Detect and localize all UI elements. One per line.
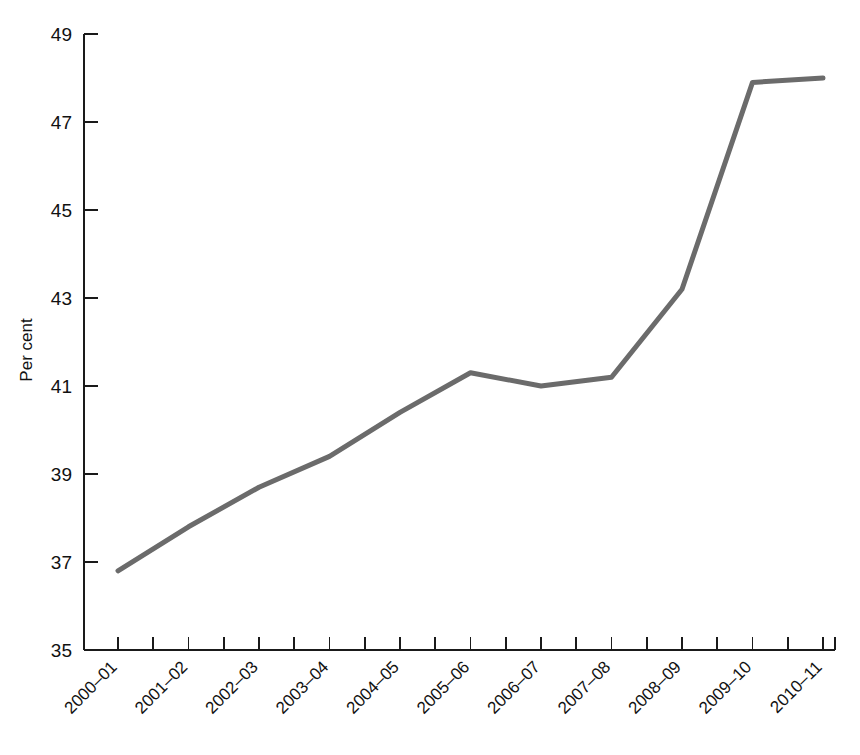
series-line (118, 78, 823, 571)
y-axis: 3537394143454749 (51, 24, 98, 661)
x-tick-label: 2007–08 (554, 657, 614, 717)
x-tick-label: 2009–10 (695, 657, 755, 717)
data-series-group (118, 78, 823, 571)
x-tick-label: 2010–11 (766, 657, 825, 716)
y-tick-label: 41 (51, 376, 72, 397)
x-tick-label: 2001–02 (131, 657, 191, 717)
y-tick-label: 45 (51, 200, 72, 221)
y-axis-title: Per cent (17, 318, 36, 382)
x-tick-label: 2005–06 (413, 657, 473, 717)
y-tick-label: 47 (51, 112, 72, 133)
y-tick-label: 43 (51, 288, 72, 309)
line-chart-figure: 3537394143454749 2000–012001–022002–0320… (0, 0, 860, 755)
y-tick-label: 35 (51, 640, 72, 661)
y-tick-label: 39 (51, 464, 72, 485)
x-tick-label: 2000–01 (61, 657, 121, 717)
chart-canvas: 3537394143454749 2000–012001–022002–0320… (0, 0, 860, 755)
y-axis-title-group: Per cent (17, 318, 36, 382)
x-tick-label: 2004–05 (343, 657, 403, 717)
x-tick-label: 2008–09 (625, 657, 685, 717)
y-tick-label: 37 (51, 552, 72, 573)
x-tick-label: 2006–07 (484, 657, 544, 717)
x-tick-label: 2003–04 (272, 657, 332, 717)
x-tick-label: 2002–03 (202, 657, 262, 717)
y-tick-label: 49 (51, 24, 72, 45)
x-axis: 2000–012001–022002–032003–042004–052005–… (61, 637, 835, 718)
